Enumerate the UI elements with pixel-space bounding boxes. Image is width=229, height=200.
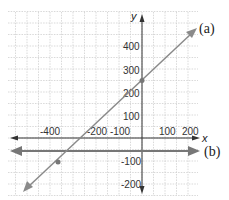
point-y-intercept xyxy=(140,78,145,83)
x-tick-label: 200 xyxy=(182,126,199,137)
line-b-right-arrow-icon xyxy=(188,146,200,156)
line-b-label: (b) xyxy=(204,144,221,160)
y-tick-label: -100 xyxy=(121,156,141,167)
y-tick-label: 400 xyxy=(123,41,140,52)
x-axis-label: x xyxy=(201,132,208,144)
line-a-down-arrow-icon xyxy=(23,181,33,192)
x-axis-left-arrow-icon xyxy=(10,136,18,141)
point-on-line-a xyxy=(56,160,61,165)
y-axis-label: y xyxy=(130,10,138,22)
line-a-label: (a) xyxy=(199,21,215,37)
y-tick-label: 100 xyxy=(123,111,140,122)
x-tick-label: 100 xyxy=(159,126,176,137)
line-a xyxy=(28,33,192,187)
x-tick-label: -200 xyxy=(87,126,107,137)
x-tick-label: -100 xyxy=(110,126,130,137)
y-tick-label: 300 xyxy=(123,65,140,76)
x-tick-label: -400 xyxy=(40,126,60,137)
y-axis-up-arrow-icon xyxy=(140,14,145,22)
line-b-left-arrow-icon xyxy=(10,146,22,156)
coordinate-plane: x y -400 -200 -100 100 200 400 300 200 1… xyxy=(0,0,229,200)
y-tick-label: -200 xyxy=(121,179,141,190)
grid xyxy=(8,12,198,197)
